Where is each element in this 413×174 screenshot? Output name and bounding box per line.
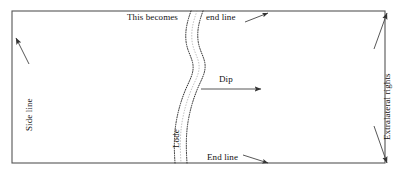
label-dip: Dip <box>219 74 233 84</box>
mining-claim-diagram: This becomes end line Dip End line Side … <box>0 0 413 174</box>
label-side-line: Side line <box>24 98 34 131</box>
lode-edge-right <box>186 11 205 163</box>
label-end-line-bottom: End line <box>207 152 238 162</box>
label-end-line-top: end line <box>206 12 236 22</box>
label-lode: Lode <box>171 129 181 148</box>
lode-center-stipple <box>180 11 199 163</box>
label-extralateral-rights: Extralateral rights <box>382 73 392 140</box>
end-line-top-leader <box>245 13 268 22</box>
label-this-becomes: This becomes <box>127 12 178 22</box>
diagram-canvas <box>0 0 413 174</box>
side-line-leader <box>16 38 29 64</box>
end-line-bottom-leader <box>243 155 268 163</box>
